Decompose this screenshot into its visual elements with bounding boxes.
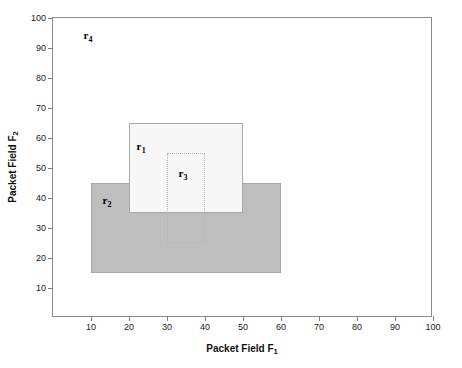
x-axis-tick (205, 316, 206, 321)
y-axis-tick (48, 138, 53, 139)
x-axis-tick-label: 60 (276, 323, 286, 332)
x-axis-tick-label: 40 (200, 323, 210, 332)
y-axis-tick-label: 100 (31, 14, 46, 23)
y-axis-tick-label: 50 (36, 164, 46, 173)
y-axis-tick (48, 18, 53, 19)
x-axis-title-subscript: 1 (274, 347, 278, 356)
y-axis-tick-label: 60 (36, 134, 46, 143)
x-axis-tick (357, 316, 358, 321)
chart-figure: 1020304050607080901001020304050607080901… (0, 0, 462, 368)
x-axis-tick (395, 316, 396, 321)
plot-area: 1020304050607080901001020304050607080901… (52, 17, 432, 317)
x-axis-tick-label: 10 (86, 323, 96, 332)
region-rect-r3 (167, 153, 205, 243)
y-axis-tick-label: 70 (36, 104, 46, 113)
y-axis-tick-label: 80 (36, 74, 46, 83)
region-label-r4: r4 (83, 30, 92, 44)
x-axis-tick (167, 316, 168, 321)
region-label-subscript: 1 (142, 146, 146, 155)
x-axis-tick-label: 20 (124, 323, 134, 332)
x-axis-tick-label: 100 (425, 323, 440, 332)
x-axis-tick (129, 316, 130, 321)
y-axis-title: Packet Field F2 (8, 97, 20, 237)
y-axis-tick-label: 90 (36, 44, 46, 53)
x-axis-title: Packet Field F1 (52, 344, 432, 356)
region-label-subscript: 3 (183, 173, 187, 182)
y-axis-tick-label: 30 (36, 224, 46, 233)
x-axis-tick (91, 316, 92, 321)
x-axis-tick-label: 50 (238, 323, 248, 332)
x-axis-tick (319, 316, 320, 321)
y-axis-tick-label: 20 (36, 254, 46, 263)
y-axis-tick (48, 108, 53, 109)
x-axis-tick (281, 316, 282, 321)
x-axis-title-main: Packet Field F (206, 343, 273, 354)
x-axis-tick-label: 80 (352, 323, 362, 332)
x-axis-tick-label: 30 (162, 323, 172, 332)
y-axis-tick (48, 48, 53, 49)
y-axis-tick-label: 10 (36, 284, 46, 293)
x-axis-tick (433, 316, 434, 321)
y-axis-tick (48, 228, 53, 229)
y-axis-tick (48, 168, 53, 169)
region-label-r3: r3 (178, 168, 187, 182)
y-axis-tick (48, 258, 53, 259)
region-label-subscript: 4 (88, 35, 92, 44)
y-axis-tick (48, 78, 53, 79)
y-axis-tick-label: 40 (36, 194, 46, 203)
region-label-r1: r1 (137, 141, 146, 155)
region-label-r2: r2 (102, 195, 111, 209)
region-label-subscript: 2 (107, 200, 111, 209)
x-axis-tick-label: 70 (314, 323, 324, 332)
y-axis-title-anchor: Packet Field F2 (0, 17, 1, 317)
y-axis-title-main: Packet Field F (7, 135, 18, 202)
y-axis-title-subscript: 2 (11, 131, 20, 135)
y-axis-tick (48, 198, 53, 199)
x-axis-tick (243, 316, 244, 321)
x-axis-tick-label: 90 (390, 323, 400, 332)
y-axis-tick (48, 288, 53, 289)
